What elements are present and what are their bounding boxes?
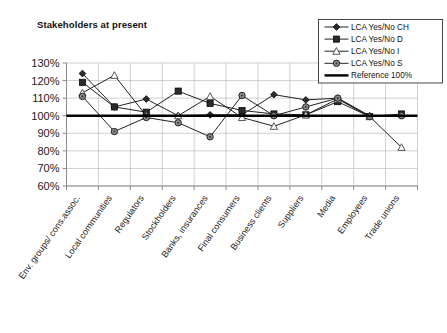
data-marker-circle-center xyxy=(81,95,83,97)
data-marker-circle-center xyxy=(209,136,211,138)
y-axis-tick-label: 90% xyxy=(37,127,59,139)
data-marker-square xyxy=(111,104,117,110)
x-axis-category-label: Employees xyxy=(336,193,370,236)
x-axis-category-label: Regulators xyxy=(113,193,146,235)
legend-item-label: LCA Yes/No CH xyxy=(351,23,409,32)
data-marker-square xyxy=(79,79,85,85)
legend-item[interactable]: LCA Yes/No I xyxy=(325,47,400,56)
x-axis-category-label: Trade unions xyxy=(363,193,401,242)
data-marker-circle-center xyxy=(305,106,307,108)
line-chart-plot: 130%120%110%100%90%80%70%60% Env. groups… xyxy=(0,0,447,333)
data-marker-triangle xyxy=(111,72,118,79)
y-axis-tick-label: 120% xyxy=(31,75,59,87)
y-axis-tick-label: 100% xyxy=(31,110,59,122)
legend-item-label: LCA Yes/No I xyxy=(351,47,399,56)
chart-legend: LCA Yes/No CHLCA Yes/No DLCA Yes/No ILCA… xyxy=(319,20,443,84)
data-marker-circle-center xyxy=(337,97,339,99)
data-marker-circle-center xyxy=(241,94,243,96)
data-marker-diamond xyxy=(302,97,309,104)
x-axis-category-label: Suppliers xyxy=(276,193,306,230)
data-marker-square xyxy=(239,107,245,113)
data-marker-diamond xyxy=(271,91,278,98)
data-marker-square xyxy=(175,88,181,94)
legend-item[interactable]: LCA Yes/No S xyxy=(325,59,403,68)
data-marker-square xyxy=(333,36,339,42)
legend-item-label: LCA Yes/No S xyxy=(351,59,403,68)
x-axis-category-label: Media xyxy=(315,193,337,219)
legend-item-label: LCA Yes/No D xyxy=(351,35,403,44)
y-axis-ticks: 130%120%110%100%90%80%70%60% xyxy=(31,57,66,192)
data-marker-diamond xyxy=(143,96,150,103)
legend-item-label: Reference 100% xyxy=(351,71,412,80)
chart-screenshot: Stakeholders at present 130%120%110%100%… xyxy=(0,0,447,333)
y-axis-tick-label: 60% xyxy=(37,180,59,192)
y-axis-tick-label: 70% xyxy=(37,162,59,174)
data-marker-circle-center xyxy=(177,122,179,124)
data-marker-circle-center xyxy=(113,130,115,132)
y-axis-tick-label: 80% xyxy=(37,145,59,157)
x-axis-category-label: Env. groups/ cons.assoc. xyxy=(17,193,82,281)
y-axis-tick-label: 130% xyxy=(31,57,59,69)
legend-item[interactable]: LCA Yes/No D xyxy=(325,35,403,44)
data-marker-triangle xyxy=(206,93,213,100)
data-marker-square xyxy=(207,100,213,106)
data-marker-circle-center xyxy=(335,62,337,64)
x-axis-category-labels: Env. groups/ cons.assoc.Local communitie… xyxy=(17,193,402,281)
y-axis-tick-label: 110% xyxy=(32,92,60,104)
